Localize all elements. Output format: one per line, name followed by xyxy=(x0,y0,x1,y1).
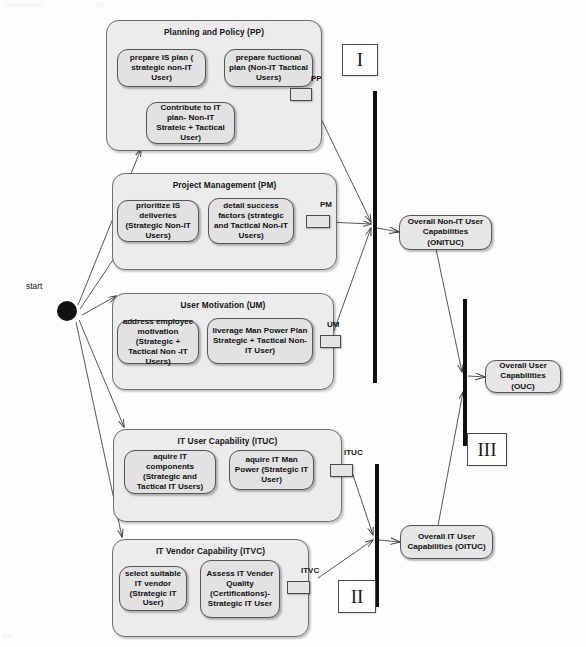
pin-itvc[interactable] xyxy=(287,581,310,594)
lane-title: IT Vendor Capability (ITVC) xyxy=(113,546,308,556)
lane-title: User Motivation (UM) xyxy=(113,300,333,310)
pin-label-ituc: ITUC xyxy=(344,448,363,457)
sync-bar-overall-join xyxy=(463,299,467,446)
pin-label-um: UM xyxy=(327,320,339,329)
diagram-canvas: start Planning and Policy (PP) prepare I… xyxy=(0,0,586,647)
pin-label-pp: PP xyxy=(311,74,322,83)
pin-ituc[interactable] xyxy=(330,464,353,477)
scan-artifact xyxy=(96,2,104,7)
action-pp-contribute-to-it-plan[interactable]: Contribute to IT plan- Non-IT Strateic +… xyxy=(146,102,235,144)
action-pm-prioritize-is-deliveries[interactable]: prioritize IS deliveries (Strategic Non-… xyxy=(117,200,199,242)
lane-title: IT User Capability (ITUC) xyxy=(114,436,341,446)
capability-overall-user[interactable]: Overall User Capabilities (OUC) xyxy=(485,360,561,393)
action-pp-prepare-is-plan[interactable]: prepare IS plan ( strategic non-IT User) xyxy=(117,49,206,87)
phase-box-iii: III xyxy=(467,433,507,466)
action-itvc-assess-it-vendor-quality[interactable]: Assess IT Vender Quality (Certifications… xyxy=(200,560,280,618)
phase-box-ii: II xyxy=(338,580,376,613)
pin-pm[interactable] xyxy=(306,215,330,228)
scan-artifact xyxy=(2,633,12,638)
pin-pp[interactable] xyxy=(290,88,312,101)
start-node[interactable] xyxy=(57,301,77,321)
start-label: start xyxy=(26,281,42,291)
capability-overall-it-user[interactable]: Overall IT User Capabilities (OITUC) xyxy=(400,525,493,559)
lane-title: Planning and Policy (PP) xyxy=(107,27,321,37)
pin-um[interactable] xyxy=(320,335,341,348)
action-ituc-aquire-it-man-power[interactable]: aquire IT Man Power (Strategic IT User) xyxy=(229,450,314,490)
sync-bar-non-it-join xyxy=(373,91,377,383)
capability-overall-non-it-user[interactable]: Overall Non-IT User Capabilities (ONITUC… xyxy=(399,215,492,250)
scan-artifact xyxy=(4,3,44,7)
action-um-address-employee-motivation[interactable]: address employee motivation (Strategic +… xyxy=(117,320,199,364)
pin-label-pm: PM xyxy=(320,200,332,209)
lane-title: Project Management (PM) xyxy=(113,180,336,190)
action-ituc-aquire-it-components[interactable]: aquire IT components (Strategic and Tact… xyxy=(124,450,216,494)
action-um-leverage-man-power-plan[interactable]: liverage Man Power Plan Strategic + Tact… xyxy=(207,318,313,364)
action-pp-prepare-functional-plan[interactable]: prepare fuctional plan (Non-IT Tactical … xyxy=(224,49,313,87)
action-pm-detail-success-factors[interactable]: detail success factors (strategic and Ta… xyxy=(208,198,294,244)
action-itvc-select-suitable-it-vendor[interactable]: select suitable IT vendor (Strategic IT … xyxy=(119,566,187,611)
pin-label-itvc: ITVC xyxy=(301,566,319,575)
phase-box-i: I xyxy=(342,44,378,76)
